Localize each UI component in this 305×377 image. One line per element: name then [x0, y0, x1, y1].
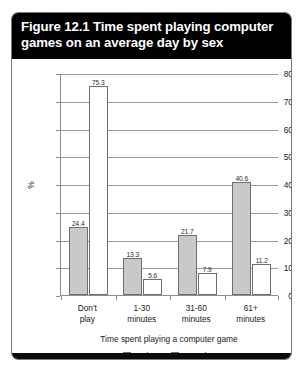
bar-value-label: 75.3: [92, 79, 104, 86]
bar-value-label: 7.9: [203, 266, 212, 273]
x-tick-mark: [116, 296, 117, 300]
y-axis-title-label: %: [26, 181, 36, 189]
figure-title-bar: Figure 12.1 Time spent playing computer …: [11, 12, 292, 59]
x-tick-mark: [170, 296, 171, 300]
x-category-label: 1-30minutes: [127, 303, 156, 325]
bar-value-label: 11.2: [256, 257, 268, 264]
bar: [198, 273, 217, 295]
x-tick-mark: [225, 296, 226, 300]
bar-value-label: 40.6: [236, 175, 248, 182]
y-tick-mark: [56, 296, 60, 297]
x-category-label: Don'tplay: [78, 303, 97, 325]
x-tick-mark: [61, 296, 62, 300]
bar: [232, 182, 251, 295]
y-axis-title: %: [27, 74, 35, 296]
x-category-label: 31-60minutes: [182, 303, 211, 325]
figure-card: Figure 12.1 Time spent playing computer …: [11, 12, 292, 360]
x-category-label-line: minutes: [236, 314, 265, 325]
bar-value-label: 21.7: [181, 228, 193, 235]
x-category-label-line: 1-30: [127, 303, 156, 314]
bar-value-label: 13.3: [127, 251, 139, 258]
x-category-label-line: 31-60: [182, 303, 211, 314]
bar: [69, 227, 88, 295]
bar-value-label: 24.4: [72, 220, 84, 227]
bar: [123, 258, 142, 295]
x-tick-mark: [278, 296, 279, 300]
x-category-label-line: minutes: [127, 314, 156, 325]
x-category-label-line: 61+: [236, 303, 265, 314]
gridline: [61, 74, 278, 75]
bar-value-label: 5.6: [148, 272, 157, 279]
x-category-label-line: Don't: [78, 303, 97, 314]
x-category-label-line: minutes: [182, 314, 211, 325]
plot-area: 24.475.313.35.621.77.940.611.2: [60, 74, 278, 296]
bar: [89, 86, 108, 295]
x-category-label-line: play: [78, 314, 97, 325]
bar: [143, 279, 162, 295]
chart-region: % 01020304050607080 24.475.313.35.621.77…: [12, 61, 292, 355]
card-bottom-edge: [11, 353, 292, 360]
x-category-label: 61+minutes: [236, 303, 265, 325]
bar: [178, 235, 197, 295]
x-axis-title: Time spent playing a computer game: [60, 334, 278, 344]
figure-title: Figure 12.1 Time spent playing computer …: [21, 19, 284, 51]
bar: [252, 264, 271, 295]
